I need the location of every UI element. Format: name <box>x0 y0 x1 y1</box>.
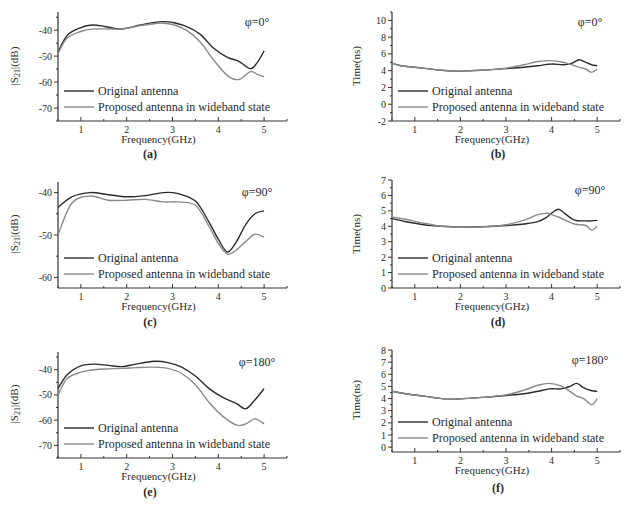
y-tick-label: -60 <box>39 272 52 283</box>
legend: Original antennaProposed antenna in wide… <box>64 84 270 114</box>
x-tick-label: 4 <box>549 291 554 302</box>
y-tick-label: 0 <box>381 99 386 110</box>
y-axis-label: Time(ns) <box>350 214 363 254</box>
y-tick-label: 0 <box>381 442 386 453</box>
legend: Original antennaProposed antenna in wide… <box>398 251 604 281</box>
x-tick-label: 4 <box>216 461 221 472</box>
subplot-caption: (e) <box>143 485 156 499</box>
y-tick-label: 8 <box>381 32 386 43</box>
phi-annotation: φ=180° <box>239 355 276 369</box>
y-tick-label: 6 <box>381 369 386 380</box>
series-original-antenna <box>58 361 264 409</box>
y-tick-label: 4 <box>381 221 386 232</box>
subplot-b: 1086420-212345Frequency(GHz)Time(ns)Orig… <box>320 0 627 170</box>
phi-annotation: φ=90° <box>575 183 606 197</box>
y-tick-label: -40 <box>39 25 52 36</box>
y-tick-label: 1 <box>381 430 386 441</box>
y-tick-label: -2 <box>378 116 386 127</box>
x-tick-label: 5 <box>595 291 600 302</box>
y-tick-label: 7 <box>381 175 386 186</box>
y-tick-label: 2 <box>381 417 386 428</box>
series-proposed-antenna <box>392 213 597 230</box>
y-tick-label: 4 <box>381 393 386 404</box>
legend-label-proposed: Proposed antenna in wideband state <box>98 437 270 451</box>
x-tick-label: 5 <box>262 461 267 472</box>
subplot-caption: (d) <box>491 315 506 329</box>
subplot-a: -40-50-60-7012345Frequency(GHz)|S21|(dB)… <box>0 0 310 170</box>
y-axis-label: |S21|(dB) <box>8 46 22 85</box>
subplot-caption: (c) <box>143 315 156 329</box>
legend-label-original: Original antenna <box>432 251 513 265</box>
x-axis-label: Frequency(GHz) <box>455 133 530 146</box>
x-tick-label: 5 <box>262 291 267 302</box>
y-tick-label: 3 <box>381 236 386 247</box>
x-tick-label: 4 <box>549 124 554 135</box>
subplot-caption: (f) <box>492 481 504 495</box>
legend-label-proposed: Proposed antenna in wideband state <box>432 431 604 445</box>
y-axis-label: |S21|(dB) <box>8 384 22 423</box>
subplot-e: -40-50-60-7012345Frequency(GHz)|S21|(dB)… <box>0 340 310 511</box>
x-tick-label: 5 <box>595 124 600 135</box>
y-tick-label: -50 <box>39 389 52 400</box>
x-tick-label: 5 <box>595 455 600 466</box>
x-tick-label: 1 <box>78 461 83 472</box>
x-tick-label: 1 <box>412 291 417 302</box>
y-tick-label: 1 <box>381 267 386 278</box>
y-tick-label: 6 <box>381 48 386 59</box>
series-proposed-antenna <box>392 61 597 73</box>
legend-label-proposed: Proposed antenna in wideband state <box>432 267 604 281</box>
legend: Original antennaProposed antenna in wide… <box>398 84 604 114</box>
x-tick-label: 1 <box>78 291 83 302</box>
y-tick-label: -60 <box>39 415 52 426</box>
y-tick-label: 0 <box>381 283 386 294</box>
subplot-d: 7654321012345Frequency(GHz)Time(ns)Origi… <box>320 170 627 340</box>
series-original-antenna <box>58 22 264 69</box>
y-tick-label: 2 <box>381 82 386 93</box>
axes: 1086420-212345 <box>376 12 620 135</box>
x-tick-label: 4 <box>216 124 221 135</box>
y-tick-label: 3 <box>381 405 386 416</box>
legend-label-original: Original antenna <box>432 84 513 98</box>
legend-label-proposed: Proposed antenna in wideband state <box>98 100 270 114</box>
legend-label-original: Original antenna <box>98 421 179 435</box>
x-axis-label: Frequency(GHz) <box>121 300 196 313</box>
x-tick-label: 4 <box>216 291 221 302</box>
legend-label-original: Original antenna <box>98 251 179 265</box>
phi-annotation: φ=180° <box>572 353 609 367</box>
legend: Original antennaProposed antenna in wide… <box>398 415 604 445</box>
y-tick-label: -40 <box>39 364 52 375</box>
legend-label-proposed: Proposed antenna in wideband state <box>432 100 604 114</box>
y-tick-label: 5 <box>381 205 386 216</box>
x-axis-label: Frequency(GHz) <box>121 133 196 146</box>
y-axis-label: Time(ns) <box>350 46 363 86</box>
y-tick-label: -70 <box>39 440 52 451</box>
series-proposed-antenna <box>58 367 264 426</box>
series-original-antenna <box>392 209 597 227</box>
phi-annotation: φ=0° <box>245 15 270 29</box>
subplot-c: -40-50-6012345Frequency(GHz)|S21|(dB)Ori… <box>0 170 310 340</box>
y-tick-label: -40 <box>39 187 52 198</box>
y-tick-label: -50 <box>39 51 52 62</box>
series-proposed-antenna <box>58 23 264 80</box>
subplot-caption: (b) <box>491 147 506 161</box>
y-tick-label: 4 <box>381 65 386 76</box>
legend-label-original: Original antenna <box>432 415 513 429</box>
x-axis-label: Frequency(GHz) <box>121 470 196 483</box>
x-axis-label: Frequency(GHz) <box>455 300 530 313</box>
x-tick-label: 1 <box>412 124 417 135</box>
y-tick-label: -50 <box>39 230 52 241</box>
y-tick-label: 10 <box>376 15 386 26</box>
x-tick-label: 1 <box>78 124 83 135</box>
y-tick-label: 2 <box>381 252 386 263</box>
y-tick-label: -70 <box>39 103 52 114</box>
x-tick-label: 1 <box>412 455 417 466</box>
y-axis-label: |S21|(dB) <box>8 214 22 253</box>
y-tick-label: 5 <box>381 381 386 392</box>
x-axis-label: Frequency(GHz) <box>455 464 530 477</box>
y-tick-label: 7 <box>381 357 386 368</box>
phi-annotation: φ=90° <box>242 185 273 199</box>
subplot-caption: (a) <box>143 147 157 161</box>
axes: -40-50-60-7012345 <box>39 352 287 472</box>
legend-label-original: Original antenna <box>98 84 179 98</box>
y-tick-label: 8 <box>381 345 386 356</box>
